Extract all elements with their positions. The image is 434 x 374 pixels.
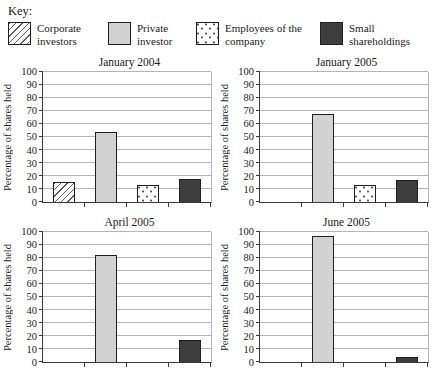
y-axis-tick <box>39 123 43 124</box>
y-axis-tick-label: 70 <box>244 266 255 276</box>
y-axis-tick-label: 60 <box>244 119 255 129</box>
y-axis-tick-label: 100 <box>238 67 254 77</box>
gridline <box>43 162 211 163</box>
x-axis-tick <box>385 202 386 207</box>
y-axis: 0102030405060708090100 <box>15 72 42 203</box>
y-axis-tick <box>256 136 260 137</box>
y-axis-tick-label: 50 <box>27 132 38 142</box>
y-axis-tick <box>256 188 260 189</box>
y-axis-tick-label: 70 <box>27 266 38 276</box>
legend-swatch-small-shareholdings <box>320 22 343 45</box>
y-axis-tick <box>39 162 43 163</box>
y-axis-tick <box>256 162 260 163</box>
y-axis-tick-label: 30 <box>27 319 38 329</box>
y-axis-tick-label: 60 <box>27 119 38 129</box>
gridline <box>260 270 428 271</box>
gridline <box>260 348 428 349</box>
gridline <box>260 84 428 85</box>
legend-items: Corporate investors Private investor Emp… <box>8 22 434 48</box>
y-axis-tick-label: 70 <box>27 106 38 116</box>
y-axis-tick <box>39 348 43 349</box>
y-axis-tick <box>39 97 43 98</box>
y-axis-tick <box>256 283 260 284</box>
y-axis-tick-label: 40 <box>27 306 38 316</box>
bar-private-investor <box>95 255 117 362</box>
bar-employees-of-the-company <box>354 185 376 202</box>
legend-item-label: Corporate investors <box>37 22 95 48</box>
y-axis-tick-label: 80 <box>27 253 38 263</box>
bar-small-shareholdings <box>396 357 418 362</box>
y-axis-tick-label: 100 <box>21 227 37 237</box>
y-axis-tick <box>39 244 43 245</box>
bar-private-investor <box>312 114 334 202</box>
x-axis-tick <box>343 362 344 367</box>
gridline <box>260 283 428 284</box>
y-axis-tick-label: 0 <box>32 198 37 208</box>
chart-title: January 2005 <box>259 56 434 68</box>
y-axis-tick <box>256 97 260 98</box>
y-axis-tick <box>256 231 260 232</box>
y-axis-tick-label: 30 <box>27 159 38 169</box>
gridline <box>43 175 211 176</box>
y-axis-tick <box>256 322 260 323</box>
legend-swatch-private-investor <box>108 22 131 45</box>
gridline <box>43 257 211 258</box>
y-axis-tick <box>39 110 43 111</box>
x-axis-tick <box>210 362 211 367</box>
y-axis-tick-label: 90 <box>27 240 38 250</box>
y-axis-tick <box>39 335 43 336</box>
x-axis-tick <box>427 202 428 207</box>
y-axis-tick-label: 60 <box>27 279 38 289</box>
y-axis-tick <box>256 149 260 150</box>
y-axis-tick <box>39 149 43 150</box>
chart-panel-january-2005: January 2005 Percentage of shares held 0… <box>217 54 434 214</box>
gridline <box>260 257 428 258</box>
y-axis-tick <box>256 296 260 297</box>
y-axis-tick-label: 0 <box>249 198 254 208</box>
y-axis: 0102030405060708090100 <box>232 232 259 363</box>
bar-private-investor <box>312 236 334 362</box>
bar-small-shareholdings <box>179 179 201 202</box>
x-axis-tick <box>84 202 85 207</box>
plot-area <box>259 232 429 363</box>
y-axis-tick <box>256 335 260 336</box>
y-axis-tick-label: 0 <box>249 358 254 368</box>
y-axis-tick-label: 50 <box>27 292 38 302</box>
gridline <box>260 322 428 323</box>
chart-panel-april-2005: April 2005 Percentage of shares held 010… <box>0 214 217 374</box>
y-axis-tick-label: 40 <box>244 306 255 316</box>
chart-panel-june-2005: June 2005 Percentage of shares held 0102… <box>217 214 434 374</box>
gridline <box>43 335 211 336</box>
legend-item-private-investor: Private investor <box>108 22 183 48</box>
y-axis-tick-label: 10 <box>27 345 38 355</box>
chart-title: April 2005 <box>42 216 217 228</box>
y-axis: 0102030405060708090100 <box>15 232 42 363</box>
gridline <box>260 71 428 72</box>
legend-item-corporate-investors: Corporate investors <box>8 22 95 48</box>
gridline <box>260 149 428 150</box>
legend-item-label: Private investor <box>137 22 183 48</box>
y-axis-tick-label: 30 <box>244 319 255 329</box>
gridline <box>260 136 428 137</box>
y-axis-tick-label: 90 <box>244 240 255 250</box>
gridline <box>43 149 211 150</box>
bar-small-shareholdings <box>179 340 201 362</box>
gridline <box>43 296 211 297</box>
y-axis-tick <box>39 270 43 271</box>
gridline <box>260 162 428 163</box>
y-axis-label-text: Percentage of shares held <box>219 84 230 191</box>
y-axis-tick-label: 50 <box>244 132 255 142</box>
chart-title: January 2004 <box>42 56 217 68</box>
gridline <box>43 244 211 245</box>
y-axis-tick-label: 20 <box>244 332 255 342</box>
x-axis-tick <box>126 202 127 207</box>
legend: Key: Corporate investors Private investo… <box>0 0 434 48</box>
y-axis-tick-label: 80 <box>244 253 255 263</box>
y-axis-tick <box>256 244 260 245</box>
x-axis-tick <box>168 202 169 207</box>
x-axis-tick <box>168 362 169 367</box>
y-axis-tick <box>256 123 260 124</box>
y-axis-tick-label: 0 <box>32 358 37 368</box>
bar-small-shareholdings <box>396 180 418 202</box>
y-axis-tick-label: 20 <box>244 172 255 182</box>
